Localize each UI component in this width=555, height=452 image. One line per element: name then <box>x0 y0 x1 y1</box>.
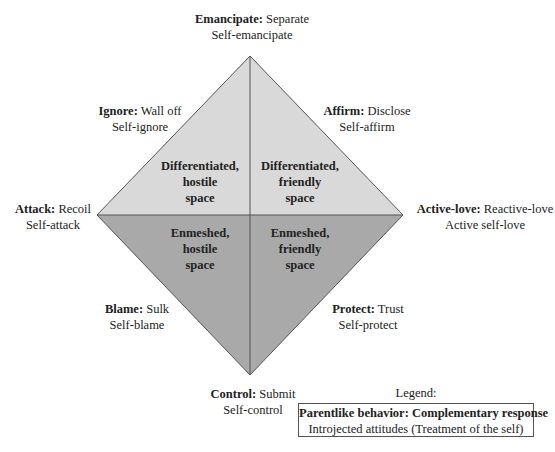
legend-line-behavior: Parentlike behavior: Complementary respo… <box>299 405 533 421</box>
pole-bold: Control: <box>211 387 257 401</box>
pole-introject: Self-attack <box>26 218 80 232</box>
pole-bold: Blame: <box>105 302 143 316</box>
pole-label-protect: Protect: Trust Self-protect <box>332 301 404 333</box>
pole-label-attack: Attack: Recoil Self-attack <box>15 201 91 233</box>
pole-bold: Attack: <box>15 202 55 216</box>
region-enmeshed-hostile: Enmeshed, hostile space <box>171 225 230 273</box>
legend-box: Parentlike behavior: Complementary respo… <box>298 403 534 437</box>
pole-bold: Active-love: <box>417 202 481 216</box>
pole-label-blame: Blame: Sulk Self-blame <box>105 301 169 333</box>
pole-introject: Self-emancipate <box>211 28 292 42</box>
pole-bold: Emancipate: <box>195 12 263 26</box>
pole-introject: Self-control <box>223 403 283 417</box>
pole-bold: Ignore: <box>98 104 137 118</box>
pole-introject: Self-protect <box>338 318 397 332</box>
pole-introject: Self-ignore <box>112 120 168 134</box>
pole-introject: Self-blame <box>110 318 165 332</box>
legend-line-introject: Introjected attitudes (Treatment of the … <box>299 421 533 437</box>
pole-label-control: Control: Submit Self-control <box>211 386 296 418</box>
legend-title: Legend: <box>396 385 437 401</box>
pole-bold: Protect: <box>332 302 375 316</box>
pole-label-affirm: Affirm: Disclose Self-affirm <box>323 103 410 135</box>
region-differentiated-friendly: Differentiated, friendly space <box>261 158 339 206</box>
pole-label-active-love: Active-love: Reactive-love Active self-l… <box>417 201 553 233</box>
pole-label-ignore: Ignore: Wall off Self-ignore <box>98 103 181 135</box>
pole-bold: Affirm: <box>323 104 364 118</box>
pole-introject: Active self-love <box>445 218 525 232</box>
region-differentiated-hostile: Differentiated, hostile space <box>161 158 239 206</box>
region-enmeshed-friendly: Enmeshed, friendly space <box>271 225 330 273</box>
pole-label-emancipate: Emancipate: Separate Self-emancipate <box>195 11 309 43</box>
pole-introject: Self-affirm <box>339 120 394 134</box>
